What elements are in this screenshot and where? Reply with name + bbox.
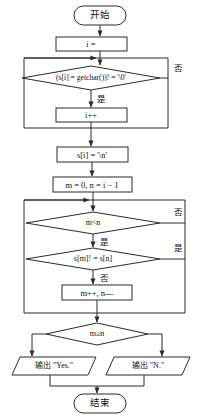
shape-init-mn bbox=[53, 177, 132, 192]
shape-cmp-sms bbox=[26, 248, 160, 270]
flowchart-canvas: 开始 i = (s[i] = getchar())! = '\0' i++ s[… bbox=[0, 0, 199, 419]
edge-no-to-end bbox=[97, 375, 144, 386]
shape-init-i bbox=[56, 37, 127, 51]
shape-out-yes bbox=[12, 357, 96, 375]
shape-end bbox=[74, 394, 126, 413]
shape-read-cond bbox=[22, 66, 160, 90]
shape-start bbox=[74, 6, 126, 25]
edge-cmpge-to-no bbox=[148, 334, 162, 356]
shape-step-mn bbox=[62, 285, 132, 300]
shape-inc-i bbox=[56, 108, 127, 122]
shape-out-no bbox=[106, 357, 190, 375]
flowchart-vector-layer bbox=[0, 0, 199, 419]
shape-set-nl bbox=[57, 147, 128, 162]
shape-cmp-mn bbox=[26, 212, 160, 234]
shape-cmp-ge bbox=[46, 323, 148, 345]
edge-yes-to-end bbox=[50, 375, 97, 386]
edge-cmpge-to-yes bbox=[32, 334, 46, 356]
